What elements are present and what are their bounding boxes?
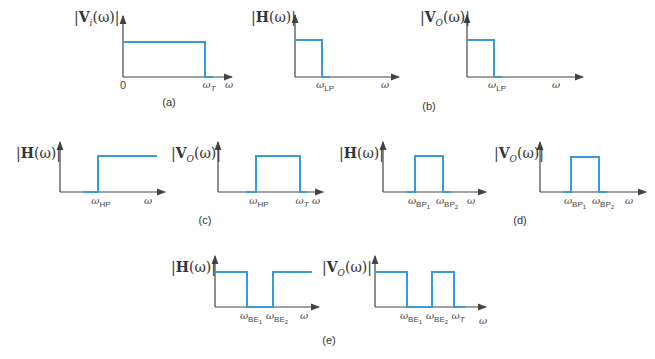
ylabel-h-e: |H(ω)| <box>171 260 216 274</box>
plots-canvas <box>0 0 655 359</box>
highpass-vo <box>246 156 307 192</box>
ylabel-vo-b: |VO(ω)| <box>420 10 470 28</box>
tick-omega-b2: ω <box>552 80 560 90</box>
tick-omega-e1: ω <box>300 311 308 321</box>
tick-omega-t-c: ωT <box>295 196 308 209</box>
caption-e: (e) <box>322 335 335 346</box>
lowpass-vo <box>467 40 502 77</box>
tick-omega-hp-vo: ωHP <box>249 196 268 209</box>
tick-omega-t-e: ωT <box>451 311 464 324</box>
bandelim-h <box>215 272 312 307</box>
tick-omega-e2: ω <box>479 316 487 326</box>
tick-omega-be1-h: ωBE1 <box>240 311 262 325</box>
tick-omega-lp-h: ωLP <box>316 80 334 93</box>
tick-omega-d1: ω <box>467 196 475 206</box>
ylabel-vo-e: |VO(ω)| <box>322 260 372 278</box>
lowpass-h <box>295 40 330 77</box>
bandpass-h <box>407 156 451 192</box>
bandelim-vo <box>375 272 465 307</box>
ylabel-vi: |Vi(ω)| <box>74 10 120 28</box>
caption-b: (b) <box>422 101 435 112</box>
filter-spectra-diagram: |Vi(ω)| 0 ωT ω (a) |H(ω)| ωLP ω |VO(ω)| … <box>0 0 655 359</box>
tick-omega-be2-vo: ωBE2 <box>426 311 448 325</box>
highpass-h <box>83 156 157 192</box>
ylabel-vo-c: |VO(ω)| <box>171 146 221 164</box>
spectrum-vi <box>123 42 213 77</box>
tick-omega-bp2-vo: ωBP2 <box>592 196 614 210</box>
tick-omega-be2-h: ωBE2 <box>266 311 288 325</box>
tick-omega-hp-h: ωHP <box>91 196 110 209</box>
tick-omega-be1-vo: ωBE1 <box>400 311 422 325</box>
caption-a: (a) <box>162 97 175 108</box>
ylabel-h-c: |H(ω)| <box>16 146 61 160</box>
tick-omega-c2: ω <box>312 196 320 206</box>
bandpass-vo <box>563 157 607 192</box>
ylabel-h-d: |H(ω)| <box>339 146 384 160</box>
tick-omega: ω <box>225 80 233 90</box>
tick-omega-c1: ω <box>144 196 152 206</box>
tick-omega-bp1-vo: ωBP1 <box>564 196 586 210</box>
ylabel-vo-d: |VO(ω)| <box>494 146 544 164</box>
tick-omega-d2: ω <box>625 196 633 206</box>
tick-omega-bp1-h: ωBP1 <box>408 196 430 210</box>
caption-d: (d) <box>513 215 526 226</box>
ylabel-h-b: |H(ω)| <box>251 10 296 24</box>
tick-omega-t: ωT <box>202 80 215 93</box>
caption-c: (c) <box>199 215 212 226</box>
tick-omega-bp2-h: ωBP2 <box>436 196 458 210</box>
tick-omega-b1: ω <box>381 80 389 90</box>
tick-zero: 0 <box>120 80 126 91</box>
tick-omega-lp-vo: ωLP <box>488 80 506 93</box>
